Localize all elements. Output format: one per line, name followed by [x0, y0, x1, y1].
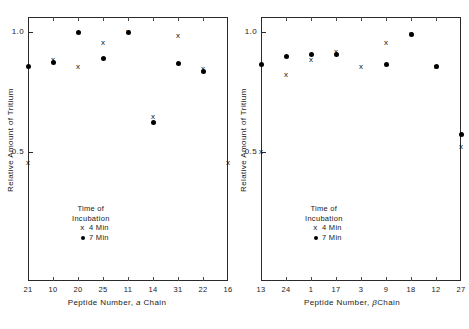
x-tick-bottom [286, 277, 287, 281]
x-tick-label: 27 [449, 285, 469, 294]
x-tick-label: 3 [349, 285, 373, 294]
data-point-dot [384, 62, 389, 67]
x-tick-label: 13 [249, 285, 273, 294]
data-point-x: x [256, 148, 266, 156]
data-point-x: x [173, 32, 183, 40]
data-point-dot [284, 54, 289, 59]
x-tick-bottom [78, 277, 79, 281]
data-point-dot [101, 56, 106, 61]
data-point-x: x [381, 39, 391, 47]
x-tick-bottom [178, 277, 179, 281]
legend-entry-7min: 7 Min [79, 233, 110, 243]
data-point-dot [434, 64, 439, 69]
x-tick-bottom [128, 277, 129, 281]
legend-title-line1: Time of [305, 204, 343, 214]
x-tick-top [153, 17, 154, 21]
legend-dot-marker-icon [312, 233, 319, 243]
x-tick-label: 17 [324, 285, 348, 294]
x-tick-bottom [203, 277, 204, 281]
legend-dot-marker-icon [79, 233, 86, 243]
x-tick-label: 14 [141, 285, 165, 294]
legend-x-marker-icon: x [79, 223, 86, 233]
legend-entry-label: 4 Min [89, 223, 109, 233]
x-tick-label: 24 [274, 285, 298, 294]
x-tick-bottom [53, 277, 54, 281]
plot-frame-alpha [28, 17, 228, 281]
x-tick-top [361, 17, 362, 21]
x-axis-label-beta: Peptide Number, βChain [235, 298, 469, 307]
data-point-dot [201, 69, 206, 74]
data-point-dot [76, 30, 81, 35]
y-tick [28, 152, 33, 153]
x-tick-top [78, 17, 79, 21]
data-point-dot [151, 120, 156, 125]
y-tick [28, 32, 33, 33]
chart-panel-beta: 1324117391812271.00.5 xxxxxxxxx Relative… [235, 0, 469, 329]
data-point-dot [309, 52, 314, 57]
x-tick-top [128, 17, 129, 21]
x-tick-label: 31 [166, 285, 190, 294]
x-tick-top [311, 17, 312, 21]
y-tick-label: 1.0 [235, 27, 257, 36]
data-point-x: x [456, 143, 466, 151]
plot-frame-beta [261, 17, 461, 281]
data-point-dot [126, 30, 131, 35]
data-point-x: x [23, 159, 33, 167]
legend-entry-7min: 7 Min [312, 233, 343, 243]
legend-title-line1: Time of [72, 204, 110, 214]
data-point-dot [26, 64, 31, 69]
x-tick-label: 18 [399, 285, 423, 294]
data-point-dot [459, 132, 464, 137]
y-tick [261, 32, 266, 33]
legend-beta: Time of Incubation x 4 Min 7 Min [305, 204, 343, 242]
legend-x-marker-icon: x [312, 223, 319, 233]
x-tick-top [203, 17, 204, 21]
data-point-x: x [223, 159, 233, 167]
x-tick-label: 20 [66, 285, 90, 294]
x-tick-bottom [153, 277, 154, 281]
legend-entry-label: 7 Min [322, 233, 342, 243]
x-tick-bottom [336, 277, 337, 281]
x-tick-bottom [386, 277, 387, 281]
x-tick-top [336, 17, 337, 21]
legend-entry-4min: x 4 Min [79, 223, 110, 233]
legend-entry-label: 4 Min [322, 223, 342, 233]
data-point-x: x [73, 63, 83, 71]
data-point-dot [409, 32, 414, 37]
x-tick-label: 22 [191, 285, 215, 294]
x-tick-bottom [436, 277, 437, 281]
legend-entry-4min: x 4 Min [312, 223, 343, 233]
legend-entry-label: 7 Min [89, 233, 109, 243]
y-tick-label: 1.0 [2, 27, 24, 36]
data-point-x: x [98, 39, 108, 47]
y-axis-label-beta: Relative Amount of Tritium [239, 88, 248, 192]
x-tick-top [436, 17, 437, 21]
x-tick-bottom [311, 277, 312, 281]
chart-panel-alpha: 2110202511143122161.00.5 xxxxxxxxx Relat… [0, 0, 234, 329]
x-tick-label: 9 [374, 285, 398, 294]
x-tick-label: 25 [91, 285, 115, 294]
x-tick-label: 1 [299, 285, 323, 294]
x-tick-label: 12 [424, 285, 448, 294]
x-tick-top [286, 17, 287, 21]
x-tick-bottom [103, 277, 104, 281]
data-point-x: x [356, 63, 366, 71]
data-point-dot [51, 60, 56, 65]
data-point-dot [176, 61, 181, 66]
x-tick-top [386, 17, 387, 21]
x-tick-bottom [411, 277, 412, 281]
y-axis-label-alpha: Relative Amount of Tritium [6, 88, 15, 192]
legend-title-line2: Incubation [72, 214, 110, 224]
x-axis-label-alpha: Peptide Number, a Chain [0, 298, 234, 307]
x-tick-top [178, 17, 179, 21]
legend-title-line2: Incubation [305, 214, 343, 224]
legend-alpha: Time of Incubation x 4 Min 7 Min [72, 204, 110, 242]
data-point-x: x [281, 71, 291, 79]
x-tick-bottom [361, 277, 362, 281]
x-tick-label: 11 [116, 285, 140, 294]
x-tick-top [103, 17, 104, 21]
figure-container: 2110202511143122161.00.5 xxxxxxxxx Relat… [0, 0, 469, 329]
data-point-dot [259, 62, 264, 67]
data-point-dot [334, 52, 339, 57]
x-tick-label: 21 [16, 285, 40, 294]
